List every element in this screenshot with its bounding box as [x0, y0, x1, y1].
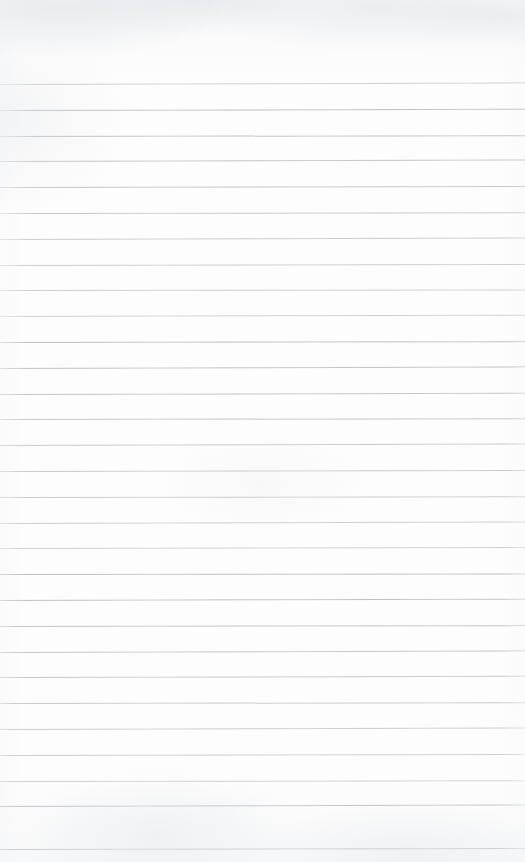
scanned-page [0, 0, 525, 862]
paper-sheet [0, 0, 525, 862]
